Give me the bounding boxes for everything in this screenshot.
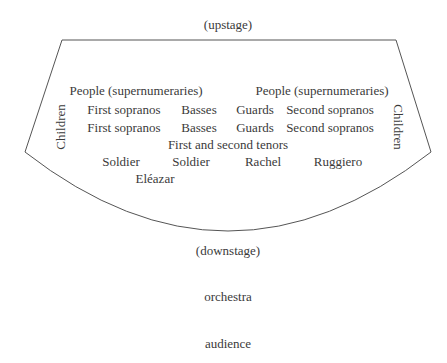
eleazar: Eléazar	[136, 172, 175, 185]
soldier-1: Soldier	[102, 155, 140, 168]
second-sopranos-1: Second sopranos	[286, 103, 374, 116]
basses-2: Basses	[181, 121, 216, 134]
basses-1: Basses	[181, 103, 216, 116]
downstage-label: (downstage)	[196, 244, 260, 257]
soldier-2: Soldier	[172, 155, 210, 168]
people-right: People (supernumeraries)	[255, 84, 388, 97]
first-sopranos-2: First sopranos	[87, 121, 160, 134]
guards-2: Guards	[236, 121, 274, 134]
ruggiero: Ruggiero	[314, 155, 362, 168]
children-left: Children	[54, 104, 67, 150]
people-left: People (supernumeraries)	[69, 84, 202, 97]
audience-label: audience	[205, 337, 251, 350]
stage-outline	[0, 0, 447, 363]
orchestra-label: orchestra	[204, 290, 252, 303]
children-right: Children	[392, 104, 405, 150]
guards-1: Guards	[236, 103, 274, 116]
second-sopranos-2: Second sopranos	[286, 121, 374, 134]
tenors: First and second tenors	[168, 138, 288, 151]
rachel: Rachel	[245, 155, 281, 168]
upstage-label: (upstage)	[204, 18, 252, 31]
first-sopranos-1: First sopranos	[87, 103, 160, 116]
